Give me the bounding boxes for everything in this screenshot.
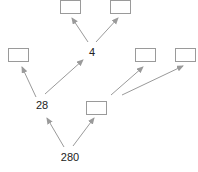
arrow-edge-n28-to-nbox_left — [22, 67, 36, 97]
blank-factor-box[interactable] — [60, 0, 81, 14]
factor-number-280: 280 — [61, 151, 79, 163]
factor-number-4: 4 — [89, 46, 95, 58]
blank-factor-box[interactable] — [8, 48, 29, 62]
factor-number-28: 28 — [36, 99, 48, 111]
blank-factor-box[interactable] — [86, 101, 107, 115]
blank-factor-box[interactable] — [175, 48, 196, 62]
blank-factor-box[interactable] — [110, 0, 131, 14]
arrow-edge-n4-to-nbox_tl — [72, 18, 88, 42]
arrow-edge-n280-to-nbox_mid — [73, 118, 94, 146]
arrow-edge-n28-to-n4 — [45, 60, 83, 94]
arrow-edge-n280-to-n28 — [47, 118, 64, 147]
arrow-edge-nbox_mid-to-nbox_r2 — [122, 66, 183, 95]
arrow-edge-nbox_mid-to-nbox_r1 — [111, 67, 143, 95]
blank-factor-box[interactable] — [135, 48, 156, 62]
arrow-edge-n4-to-nbox_tr — [96, 18, 118, 42]
edges-layer — [0, 0, 198, 172]
